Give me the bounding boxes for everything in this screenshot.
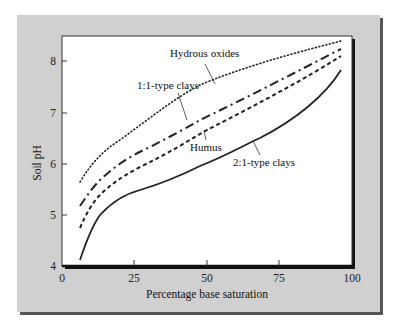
x-axis-title: Percentage base saturation bbox=[146, 288, 268, 301]
chart: 4 5 6 7 8 0 25 50 75 100 Percentage base… bbox=[0, 0, 397, 331]
clays-1-1-label: 1:1-type clays bbox=[137, 79, 199, 91]
x-tick-label: 100 bbox=[343, 272, 361, 284]
clays-2-1-label: 2:1-type clays bbox=[233, 156, 295, 168]
humus-label: Humus bbox=[190, 141, 222, 153]
y-tick-label: 8 bbox=[50, 55, 56, 67]
x-tick-label: 75 bbox=[273, 272, 285, 284]
y-tick-label: 7 bbox=[50, 107, 56, 119]
x-tick-label: 0 bbox=[59, 272, 65, 284]
y-tick-label: 6 bbox=[50, 158, 56, 170]
x-tick-label: 50 bbox=[201, 272, 213, 284]
y-tick-label: 5 bbox=[50, 209, 56, 221]
y-axis-title: Soil pH bbox=[31, 145, 44, 180]
y-tick-label: 4 bbox=[50, 260, 56, 272]
x-tick-label: 25 bbox=[128, 272, 140, 284]
hydrous-oxides-label: Hydrous oxides bbox=[170, 47, 239, 59]
